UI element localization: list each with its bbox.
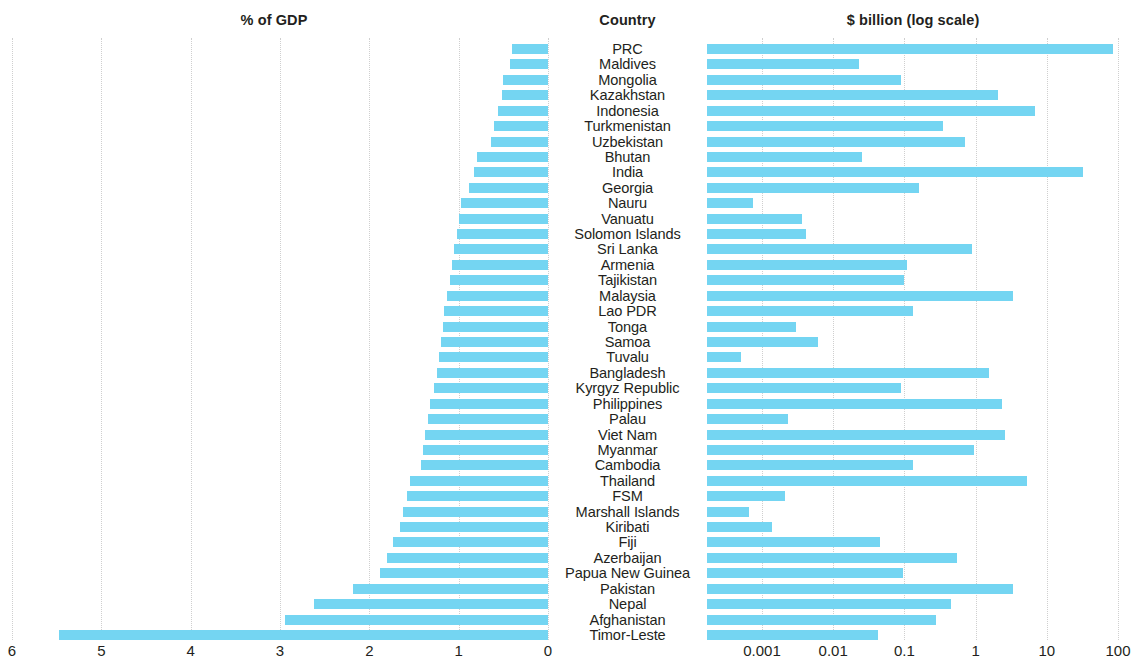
bar-dollar-billion (707, 275, 904, 285)
bar-dollar-billion (707, 244, 972, 254)
country-label: Kazakhstan (548, 88, 707, 102)
country-label: Georgia (548, 181, 707, 195)
axis-tick-label: 0.1 (894, 642, 915, 657)
country-label: Timor-Leste (548, 628, 707, 642)
bar-gdp-percent (447, 291, 548, 301)
country-label: Papua New Guinea (548, 566, 707, 580)
bar-gdp-percent (474, 167, 548, 177)
bar-gdp-percent (314, 599, 548, 609)
gridline (1118, 38, 1120, 640)
bar-gdp-percent (430, 399, 548, 409)
axis-tick-label: 5 (97, 642, 105, 657)
country-label: Azerbaijan (548, 551, 707, 565)
bar-gdp-percent (494, 121, 548, 131)
gridline (191, 38, 193, 640)
bar-dollar-billion (707, 445, 974, 455)
country-label: Indonesia (548, 104, 707, 118)
country-label: FSM (548, 489, 707, 503)
gridline (101, 38, 103, 640)
bar-dollar-billion (707, 90, 998, 100)
bar-dollar-billion (707, 337, 818, 347)
bar-dollar-billion (707, 568, 903, 578)
country-label: Philippines (548, 397, 707, 411)
axis-tick-label: 6 (8, 642, 16, 657)
bar-dollar-billion (707, 630, 878, 640)
bar-dollar-billion (707, 430, 1005, 440)
bar-gdp-percent (452, 260, 548, 270)
bar-gdp-percent (469, 183, 548, 193)
country-label: Kiribati (548, 520, 707, 534)
left-panel: 6543210 (0, 38, 548, 650)
country-label: Bangladesh (548, 366, 707, 380)
country-label: Afghanistan (548, 613, 707, 627)
bar-gdp-percent (428, 414, 548, 424)
bar-dollar-billion (707, 152, 862, 162)
gridline (976, 38, 978, 640)
country-label: Pakistan (548, 582, 707, 596)
bar-gdp-percent (423, 445, 548, 455)
bar-dollar-billion (707, 214, 802, 224)
bar-dollar-billion (707, 260, 907, 270)
country-label: Samoa (548, 335, 707, 349)
bar-gdp-percent (410, 476, 548, 486)
bar-dollar-billion (707, 229, 806, 239)
bar-gdp-percent (425, 430, 548, 440)
country-label: Uzbekistan (548, 135, 707, 149)
country-label: Nauru (548, 196, 707, 210)
bar-dollar-billion (707, 137, 965, 147)
country-label: Maldives (548, 57, 707, 71)
bar-dollar-billion (707, 460, 913, 470)
bar-gdp-percent (403, 507, 548, 517)
country-label: Bhutan (548, 150, 707, 164)
right-panel-header: $ billion (log scale) (707, 12, 1119, 28)
bar-dollar-billion (707, 537, 880, 547)
country-label: Vanuatu (548, 212, 707, 226)
country-label: Fiji (548, 535, 707, 549)
axis-tick-label: 0.01 (819, 642, 848, 657)
country-label: Viet Nam (548, 428, 707, 442)
bar-dollar-billion (707, 399, 1002, 409)
right-panel: 0.0010.010.1110100 (707, 38, 1119, 650)
bar-gdp-percent (450, 275, 548, 285)
bar-gdp-percent (444, 306, 548, 316)
country-label: Tuvalu (548, 350, 707, 364)
bar-dollar-billion (707, 599, 951, 609)
bar-gdp-percent (400, 522, 548, 532)
bar-dollar-billion (707, 584, 1013, 594)
left-panel-header: % of GDP (0, 12, 548, 28)
bar-gdp-percent (461, 198, 548, 208)
country-label: Kyrgyz Republic (548, 381, 707, 395)
bar-gdp-percent (441, 337, 548, 347)
country-label: Armenia (548, 258, 707, 272)
bar-dollar-billion (707, 183, 919, 193)
bar-dollar-billion (707, 522, 772, 532)
bar-gdp-percent (491, 137, 548, 147)
bar-dollar-billion (707, 491, 785, 501)
bar-gdp-percent (443, 322, 548, 332)
gridline (12, 38, 14, 640)
country-label: Sri Lanka (548, 242, 707, 256)
country-column-header: Country (548, 12, 707, 28)
country-label: Tajikistan (548, 273, 707, 287)
bar-dollar-billion (707, 106, 1035, 116)
axis-tick-label: 3 (276, 642, 284, 657)
bar-dollar-billion (707, 368, 989, 378)
bar-gdp-percent (380, 568, 548, 578)
bar-dollar-billion (707, 476, 1027, 486)
bar-dollar-billion (707, 553, 957, 563)
country-label: Cambodia (548, 458, 707, 472)
bar-gdp-percent (477, 152, 548, 162)
bar-dollar-billion (707, 167, 1083, 177)
bar-gdp-percent (459, 214, 548, 224)
bar-gdp-percent (437, 368, 548, 378)
axis-tick-label: 100 (1105, 642, 1130, 657)
country-label: Solomon Islands (548, 227, 707, 241)
bar-gdp-percent (285, 615, 548, 625)
bar-gdp-percent (503, 75, 548, 85)
gridline (369, 38, 371, 640)
axis-tick-label: 4 (186, 642, 194, 657)
axis-tick-label: 1 (971, 642, 979, 657)
bar-dollar-billion (707, 44, 1113, 54)
gridline (280, 38, 282, 640)
